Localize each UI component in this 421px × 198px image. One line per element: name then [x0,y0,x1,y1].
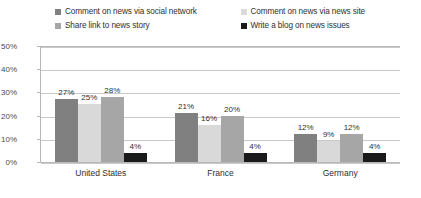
y-axis-tick-label: 40% [0,65,17,74]
legend-label: Comment on news via social network [65,6,197,17]
bar-group: 27%25%28%4% [41,46,161,162]
bar-slot: 4% [124,46,147,162]
legend-label: Write a blog on news issues [251,20,350,31]
y-axis-tick-mark [37,139,40,140]
bar[interactable]: 12% [340,134,363,162]
bar[interactable]: 27% [55,99,78,162]
x-axis-category-label: Germany [280,168,400,178]
x-axis-category-label: France [161,168,281,178]
legend-item-share-link[interactable]: Share link to news story [52,20,235,31]
bar[interactable]: 28% [101,97,124,162]
y-axis-tick-mark [37,92,40,93]
legend-item-comment-social-network[interactable]: Comment on news via social network [52,6,235,17]
bar-group: 21%16%20%4% [161,46,281,162]
bar-group: 12%9%12%4% [280,46,400,162]
legend-swatch-icon [241,23,247,29]
bar-value-label: 27% [58,88,74,98]
bar-slot: 28% [101,46,124,162]
y-axis-tick-mark [37,69,40,70]
bar[interactable]: 4% [363,153,386,162]
bar-value-label: 12% [298,123,314,133]
bar-slot: 12% [340,46,363,162]
bar-slot: 9% [317,46,340,162]
bar-chart: Comment on news via social network Comme… [0,0,421,198]
bar-value-label: 12% [344,123,360,133]
bar-value-label: 16% [201,114,217,124]
bar-value-label: 25% [81,93,97,103]
bar-slot: 4% [363,46,386,162]
y-axis-tick-label: 30% [0,88,17,97]
y-axis-tick-mark [37,162,40,163]
legend-label: Comment on news via news site [251,6,366,17]
bar[interactable]: 20% [221,116,244,162]
bar-value-label: 4% [249,142,261,152]
bar[interactable]: 16% [198,125,221,162]
y-axis-tick-label: 0% [0,158,17,167]
bar[interactable]: 25% [78,104,101,162]
bar-value-label: 21% [178,102,194,112]
x-axis-labels: United StatesFranceGermany [41,168,400,178]
bar-slot: 12% [294,46,317,162]
bar[interactable]: 4% [244,153,267,162]
y-axis-tick-label: 10% [0,135,17,144]
legend-swatch-icon [55,9,61,15]
legend-swatch-icon [55,23,61,29]
bar-slot: 27% [55,46,78,162]
bar-value-label: 4% [130,142,142,152]
bar[interactable]: 12% [294,134,317,162]
x-axis-category-label: United States [41,168,161,178]
bar-slot: 16% [198,46,221,162]
bar[interactable]: 4% [124,153,147,162]
bar-slot: 25% [78,46,101,162]
bar-slot: 21% [175,46,198,162]
legend-swatch-icon [241,9,247,15]
gridline [41,163,400,164]
bar-slot: 4% [244,46,267,162]
y-axis-tick-label: 20% [0,112,17,121]
bar-slot: 20% [221,46,244,162]
bar-groups: 27%25%28%4%21%16%20%4%12%9%12%4% [41,46,400,162]
bar-value-label: 28% [104,86,120,96]
y-axis-tick-label: 50% [0,42,17,51]
bar-value-label: 4% [369,142,381,152]
legend-label: Share link to news story [65,20,150,31]
y-axis-tick-mark [37,116,40,117]
chart-legend: Comment on news via social network Comme… [52,6,417,31]
bar-value-label: 9% [323,130,335,140]
bar[interactable]: 21% [175,113,198,162]
y-axis-tick-mark [37,46,40,47]
legend-item-write-blog[interactable]: Write a blog on news issues [235,20,418,31]
bar[interactable]: 9% [317,141,340,162]
bar-value-label: 20% [224,105,240,115]
legend-item-comment-news-site[interactable]: Comment on news via news site [235,6,418,17]
